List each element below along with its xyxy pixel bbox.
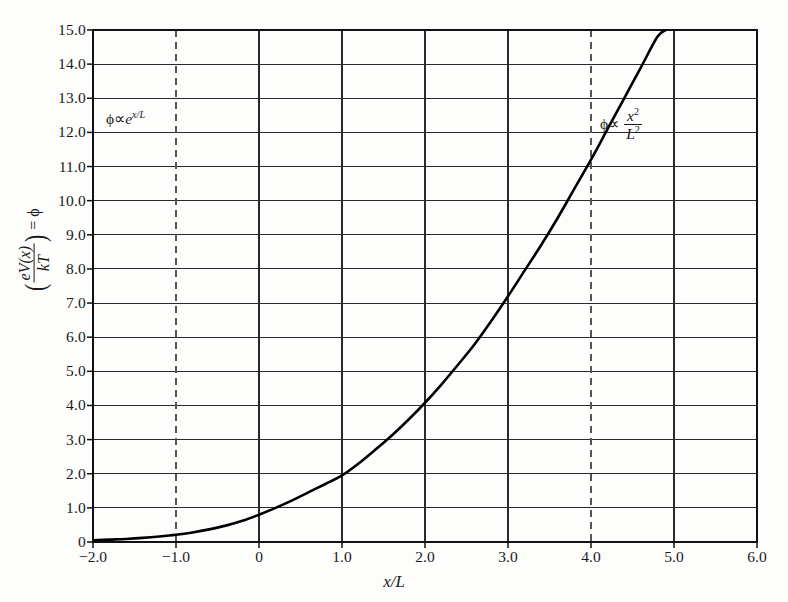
- y-title-fraction: eV(x)kT: [16, 244, 53, 283]
- annot-left-prop: ∝: [114, 110, 125, 127]
- x-axis-title: x/L: [0, 572, 788, 592]
- x-tick-label: 1.0: [332, 548, 351, 566]
- y-title-numerator: eV(x): [16, 244, 35, 283]
- y-tick-label: 6.0: [66, 328, 86, 346]
- x-tick-label: −2.0: [79, 548, 107, 566]
- x-tick-label: −1.0: [162, 548, 190, 566]
- annot-right-num: x: [627, 107, 634, 124]
- y-axis-title: (eV(x)kT) = ϕ: [17, 155, 54, 345]
- y-tick-label: 4.0: [66, 396, 86, 414]
- annot-right-phi: ϕ: [600, 115, 608, 132]
- annotation-quadratic-regime: ϕ∝ x2 L2: [600, 108, 642, 144]
- y-tick-label: 15.0: [58, 21, 86, 39]
- y-tick-label: 7.0: [66, 294, 86, 312]
- y-tick-label: 11.0: [59, 158, 86, 176]
- annot-right-den-sup: 2: [635, 124, 640, 135]
- annotation-exponential-regime: ϕ∝ex/L: [106, 110, 145, 128]
- y-title-equals: =: [25, 217, 42, 234]
- annot-left-exponent: x/L: [132, 109, 145, 120]
- y-title-denominator: kT: [35, 244, 53, 283]
- figure-canvas: 01.02.03.04.05.06.07.08.09.010.011.012.0…: [0, 0, 788, 602]
- x-tick-label: 2.0: [415, 548, 434, 566]
- annot-right-num-wrap: x2: [624, 107, 642, 125]
- right-paren: ): [18, 235, 52, 242]
- plot-area: [0, 0, 788, 602]
- annot-left-phi: ϕ: [106, 110, 114, 127]
- y-tick-label: 14.0: [58, 55, 86, 73]
- x-axis-title-text: x/L: [383, 572, 405, 591]
- data-curve-phi: [93, 30, 666, 540]
- y-title-phi: ϕ: [25, 208, 42, 216]
- annot-right-num-sup: 2: [634, 106, 639, 117]
- vertical-gridlines: [259, 30, 674, 542]
- x-tick-label: 5.0: [664, 548, 683, 566]
- annot-right-fraction: x2 L2: [624, 107, 642, 143]
- annot-right-den: L: [626, 125, 635, 142]
- x-tick-label: 3.0: [498, 548, 517, 566]
- left-paren: (: [18, 284, 52, 291]
- y-tick-label: 2.0: [66, 465, 86, 483]
- y-tick-label: 1.0: [66, 499, 86, 517]
- annot-right-prop: ∝: [608, 115, 619, 132]
- y-tick-label: 3.0: [66, 431, 86, 449]
- y-tick-label: 10.0: [58, 192, 86, 210]
- y-tick-label: 9.0: [66, 226, 86, 244]
- y-tick-label: 12.0: [58, 123, 86, 141]
- y-tick-label: 5.0: [66, 362, 86, 380]
- y-tick-label: 13.0: [58, 89, 86, 107]
- x-tick-label: 0: [255, 548, 263, 566]
- annot-right-den-wrap: L2: [624, 125, 642, 142]
- dashed-vertical-guides: [176, 30, 591, 542]
- x-tick-label: 4.0: [581, 548, 600, 566]
- y-axis-tick-marks: [87, 30, 93, 542]
- y-tick-label: 8.0: [66, 260, 86, 278]
- x-tick-label: 6.0: [747, 548, 766, 566]
